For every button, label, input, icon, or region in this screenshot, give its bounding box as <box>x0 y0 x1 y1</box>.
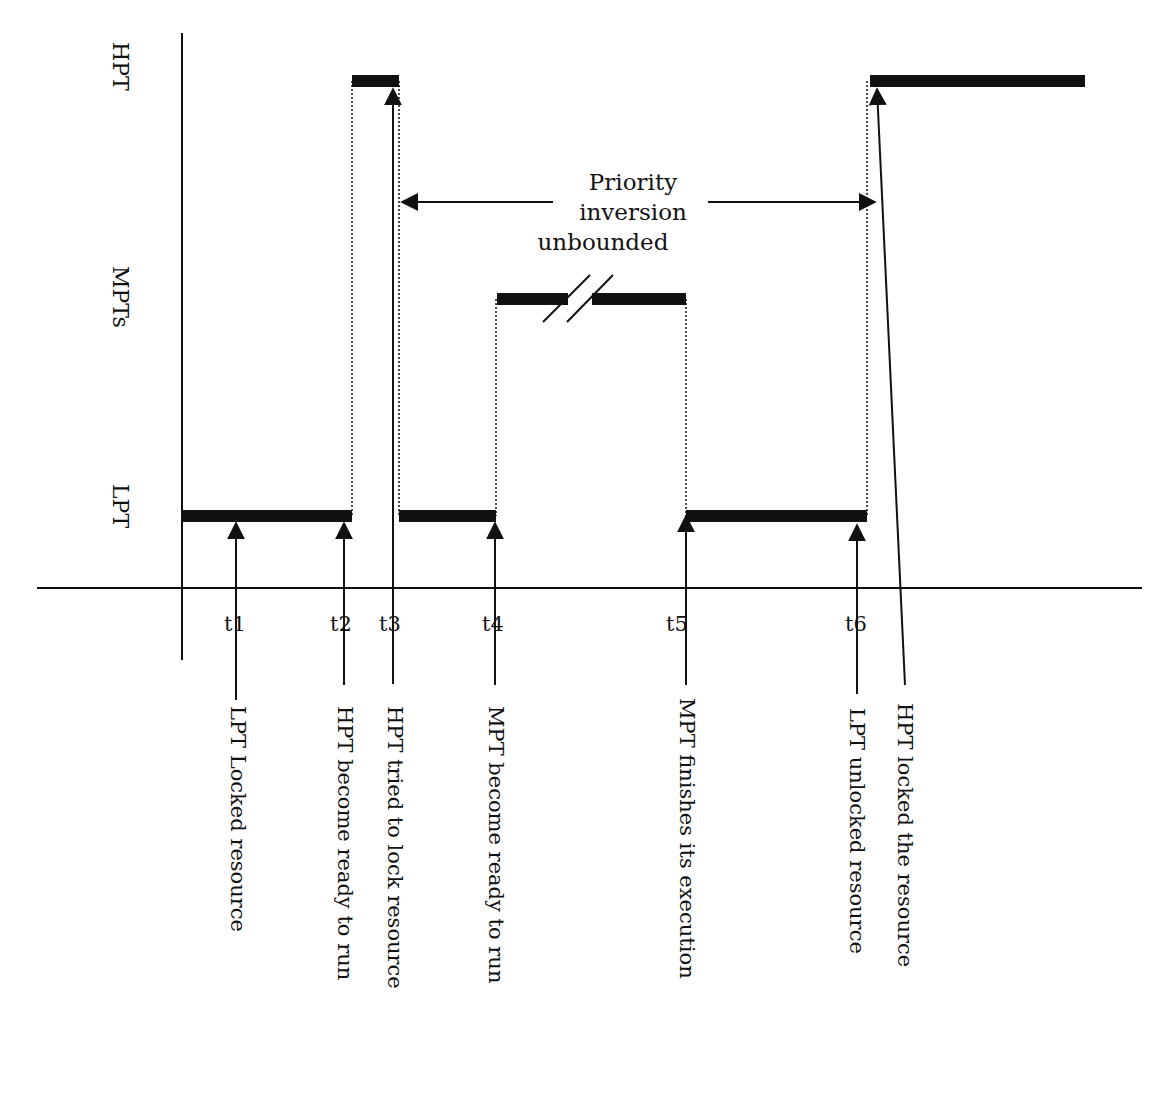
event-label-hpt-lock: HPT locked the resource <box>893 703 917 967</box>
lpt-bar-1 <box>182 510 352 522</box>
tick-t2: t2 <box>330 612 352 636</box>
event-label-t6: LPT unlocked resource <box>845 708 869 954</box>
event-label-t2: HPT become ready to run <box>333 706 357 980</box>
execution-bars <box>182 75 1085 522</box>
note-line-3: unbounded <box>493 227 713 257</box>
lane-label-hpt: HPT <box>108 42 133 91</box>
lane-label-mpts: MPTs <box>108 266 133 328</box>
tick-t6: t6 <box>845 612 867 636</box>
event-label-t3: HPT tried to lock resource <box>383 706 407 989</box>
note-line-1: Priority <box>553 167 713 197</box>
event-label-t4: MPT become ready to run <box>484 706 508 983</box>
lpt-bar-2 <box>399 510 496 522</box>
mpt-bar-1 <box>497 293 568 305</box>
event-label-t1: LPT Locked resource <box>226 706 250 932</box>
hpt-bar-2 <box>870 75 1085 87</box>
tick-t4: t4 <box>482 612 504 636</box>
hpt-bar-1 <box>352 75 399 87</box>
arrow-hpt-lock <box>877 89 905 685</box>
note-line-2: inversion <box>553 197 713 227</box>
event-label-t5: MPT finishes its execution <box>675 698 699 979</box>
diagram-graphics <box>0 0 1172 1093</box>
lpt-bar-3 <box>686 510 867 522</box>
lane-label-lpt: LPT <box>108 484 133 528</box>
tick-t1: t1 <box>224 612 246 636</box>
tick-t5: t5 <box>666 612 688 636</box>
mpt-bar-2 <box>592 293 686 305</box>
priority-inversion-note: Priority inversion unbounded <box>553 167 713 257</box>
priority-inversion-diagram: HPT MPTs LPT t1 t2 t3 t4 t5 t6 Priority … <box>0 0 1172 1093</box>
tick-t3: t3 <box>379 612 401 636</box>
